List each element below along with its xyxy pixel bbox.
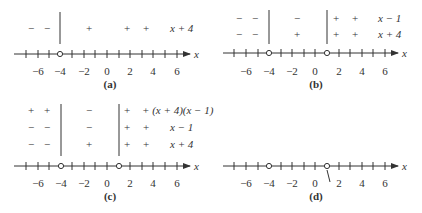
factor-label: + (x + 4)(x − 1) — [142, 104, 214, 117]
svg-text:−: − — [294, 12, 300, 24]
svg-text:−4: −4 — [55, 177, 67, 189]
svg-text:−6: −6 — [240, 65, 252, 77]
svg-text:−2: −2 — [78, 177, 90, 189]
open-point-marker — [266, 50, 271, 55]
svg-text:+: + — [352, 28, 358, 40]
svg-text:−6: −6 — [32, 65, 44, 77]
svg-text:+: + — [28, 104, 34, 116]
svg-text:+: + — [124, 138, 130, 150]
svg-text:4: 4 — [150, 65, 156, 77]
svg-text:+: + — [124, 121, 130, 133]
factor-label: x + 4 — [169, 138, 194, 150]
svg-text:−: − — [236, 28, 242, 40]
svg-text:+: + — [143, 121, 149, 133]
svg-text:−2: −2 — [78, 65, 90, 77]
svg-text:+: + — [333, 28, 339, 40]
factor-label: x − 1 — [377, 12, 401, 24]
svg-text:−: − — [44, 121, 50, 133]
open-point-marker — [58, 163, 63, 168]
svg-text:4: 4 — [359, 177, 365, 189]
open-point-marker — [324, 50, 329, 55]
sign: + — [143, 22, 149, 34]
open-point-marker — [57, 51, 62, 56]
panel-d: x −6 −4 −2 0 2 4 6 (d) — [223, 160, 407, 203]
sign: + — [124, 22, 130, 34]
sign: − — [44, 22, 50, 34]
svg-text:+: + — [86, 138, 92, 150]
svg-text:+: + — [124, 104, 130, 116]
svg-text:−: − — [86, 121, 92, 133]
svg-text:+: + — [294, 28, 300, 40]
sign-chart-figure: − − + + + x + 4 x −6 −4 −2 0 2 4 6 (a) — [0, 0, 422, 213]
panel-b-row-x-plus-4: − − + + + x + 4 — [236, 28, 402, 40]
panel-caption: (c) — [104, 190, 117, 203]
axis-label: x — [401, 47, 407, 59]
svg-text:−: − — [252, 12, 258, 24]
tick-labels: −6 −4 −2 0 2 4 6 — [32, 177, 180, 189]
panel-caption: (d) — [309, 190, 323, 203]
panel-c-row-x-minus-1: − − − + + x − 1 — [28, 121, 193, 133]
svg-text:2: 2 — [127, 177, 133, 189]
svg-text:−: − — [252, 28, 258, 40]
panel-c-row-x-plus-4: − − + + + x + 4 — [28, 138, 194, 150]
svg-text:4: 4 — [359, 65, 365, 77]
panel-c-row-product: + + − + + (x + 4)(x − 1) — [28, 104, 214, 117]
svg-text:6: 6 — [174, 65, 180, 77]
svg-text:6: 6 — [382, 177, 388, 189]
svg-text:+: + — [352, 12, 358, 24]
svg-text:−2: −2 — [286, 65, 298, 77]
svg-text:+: + — [44, 104, 50, 116]
open-point-marker — [116, 163, 121, 168]
svg-text:−: − — [44, 138, 50, 150]
svg-text:0: 0 — [312, 177, 318, 189]
svg-text:−: − — [28, 138, 34, 150]
factor-label: x − 1 — [169, 121, 193, 133]
tick-labels: −6 −4 −2 0 2 4 6 — [240, 177, 388, 189]
factor-label: x + 4 — [169, 22, 194, 34]
tick-labels: −6 −4 −2 0 2 4 6 — [240, 65, 388, 77]
axis-label: x — [193, 48, 199, 60]
svg-text:6: 6 — [382, 65, 388, 77]
panel-a: − − + + + x + 4 x −6 −4 −2 0 2 4 6 (a) — [14, 12, 199, 91]
svg-text:−4: −4 — [263, 65, 275, 77]
factor-label: x + 4 — [377, 28, 402, 40]
panel-b: − − − + + x − 1 − − + + + x + 4 x — [223, 10, 407, 91]
axis-label: x — [193, 160, 199, 172]
svg-text:2: 2 — [336, 65, 342, 77]
sign: − — [28, 22, 34, 34]
svg-text:0: 0 — [104, 177, 110, 189]
sign: + — [86, 22, 92, 34]
svg-text:−: − — [28, 121, 34, 133]
open-point-marker — [266, 163, 271, 168]
pointer-mark — [327, 170, 330, 182]
open-point-marker — [324, 163, 329, 168]
panel-caption: (a) — [104, 78, 117, 91]
svg-text:−4: −4 — [54, 65, 66, 77]
panel-c: + + − + + (x + 4)(x − 1) − − − + + x − 1… — [14, 104, 214, 203]
svg-text:0: 0 — [104, 65, 110, 77]
svg-text:−6: −6 — [240, 177, 252, 189]
svg-text:0: 0 — [312, 65, 318, 77]
panel-b-row-x-minus-1: − − − + + x − 1 — [236, 12, 401, 24]
svg-text:−: − — [236, 12, 242, 24]
svg-text:6: 6 — [174, 177, 180, 189]
svg-text:2: 2 — [127, 65, 133, 77]
svg-text:−4: −4 — [263, 177, 275, 189]
svg-text:−2: −2 — [286, 177, 298, 189]
panel-caption: (b) — [309, 78, 323, 91]
svg-text:+: + — [333, 12, 339, 24]
svg-text:−6: −6 — [32, 177, 44, 189]
svg-text:2: 2 — [336, 177, 342, 189]
svg-text:+: + — [143, 138, 149, 150]
axis-label: x — [401, 160, 407, 172]
panel-a-row-x-plus-4: − − + + + x + 4 — [28, 22, 194, 34]
svg-text:4: 4 — [150, 177, 156, 189]
tick-labels: −6 −4 −2 0 2 4 6 — [32, 65, 180, 77]
svg-text:−: − — [86, 104, 92, 116]
